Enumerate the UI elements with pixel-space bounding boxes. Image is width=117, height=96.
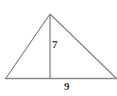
- geometry-figure: 7 9: [0, 0, 117, 96]
- base-length-label: 9: [64, 81, 70, 92]
- triangle-diagram-svg: [0, 0, 117, 96]
- altitude-length-label: 7: [52, 39, 58, 50]
- triangle-right-side: [50, 14, 116, 78]
- triangle-left-side: [6, 14, 50, 78]
